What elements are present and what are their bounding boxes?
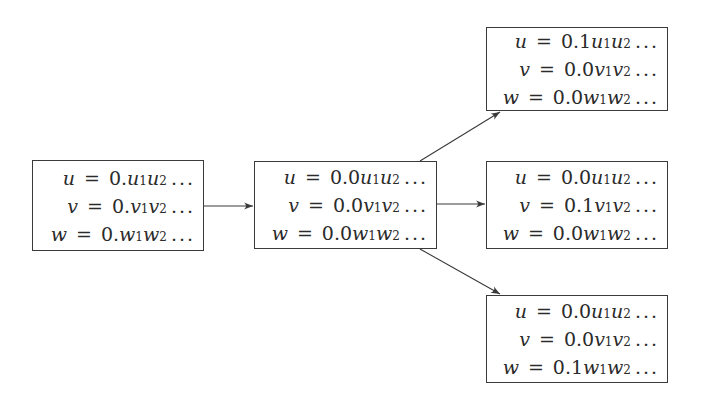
lhs-var: u [509,27,527,55]
diagram-canvas: u = 0. u1 u2 ... v = 0. v1 v2 ... w = 0.… [0,0,708,404]
digit-var: w [607,83,623,111]
digit-prefix: 0.0 [322,219,352,247]
equation-v: v = 0.0 v1 v2 ... [487,325,667,353]
equation-v: v = 0.1 v1 v2 ... [487,191,667,219]
digit-var: v [594,55,605,83]
lhs-var: w [501,219,519,247]
equation-u: u = 0. u1 u2 ... [33,164,203,192]
digit-prefix: 0.0 [333,191,363,219]
digit-prefix: 0.0 [553,83,583,111]
ellipsis: ... [171,220,195,248]
equals-sign: = [76,220,92,248]
lhs-var: w [501,353,519,381]
digit-var: v [149,192,160,220]
digit-var: w [143,220,159,248]
lhs-var: w [501,83,519,111]
ellipsis: ... [171,192,195,220]
node-child-u: u = 0.1 u1 u2 ... v = 0.0 v1 v2 ... w = … [486,27,668,111]
digit-var: w [583,219,599,247]
digit-var: u [611,27,623,55]
ellipsis: ... [635,55,659,83]
lhs-var: v [512,55,530,83]
digit-var: w [376,219,392,247]
digit-var: w [583,83,599,111]
equals-sign: = [84,164,100,192]
digit-prefix: 0.0 [564,55,594,83]
lhs-var: u [509,163,527,191]
equals-sign: = [539,191,555,219]
equation-u: u = 0.0 u1 u2 ... [487,297,667,325]
digit-var: v [130,192,141,220]
equation-v: v = 0. v1 v2 ... [33,192,203,220]
equation-w: w = 0.0 w1 w2 ... [487,83,667,111]
ellipsis: ... [635,325,659,353]
ellipsis: ... [404,163,428,191]
digit-var: v [594,191,605,219]
digit-var: v [613,325,624,353]
equation-w: w = 0. w1 w2 ... [33,220,203,248]
digit-var: v [594,325,605,353]
digit-prefix: 0.1 [564,191,594,219]
digit-var: w [119,220,135,248]
digit-var: w [583,353,599,381]
equation-w: w = 0.0 w1 w2 ... [255,219,436,247]
lhs-var: u [509,297,527,325]
digit-var: u [360,163,372,191]
equals-sign: = [536,163,552,191]
digit-prefix: 0.0 [564,325,594,353]
equation-w: w = 0.0 w1 w2 ... [487,219,667,247]
equals-sign: = [297,219,313,247]
lhs-var: u [278,163,296,191]
digit-var: w [607,353,623,381]
digit-var: u [591,297,603,325]
node-child-w: u = 0.0 u1 u2 ... v = 0.0 v1 v2 ... w = … [486,295,668,383]
digit-var: u [591,27,603,55]
equals-sign: = [536,27,552,55]
digit-var: u [147,164,159,192]
equals-sign: = [308,191,324,219]
equation-u: u = 0.0 u1 u2 ... [255,163,436,191]
ellipsis: ... [635,83,659,111]
equation-w: w = 0.1 w1 w2 ... [487,353,667,381]
equation-u: u = 0.1 u1 u2 ... [487,27,667,55]
edge-middle-to-child-w [420,249,500,294]
digit-var: u [380,163,392,191]
equals-sign: = [539,325,555,353]
lhs-var: u [57,164,75,192]
ellipsis: ... [635,27,659,55]
equation-v: v = 0.0 v1 v2 ... [255,191,436,219]
digit-prefix: 0. [112,192,130,220]
lhs-var: v [512,191,530,219]
ellipsis: ... [635,219,659,247]
digit-prefix: 0.1 [561,27,591,55]
digit-var: v [363,191,374,219]
node-middle: u = 0.0 u1 u2 ... v = 0.0 v1 v2 ... w = … [254,161,437,249]
equals-sign: = [536,297,552,325]
equals-sign: = [539,55,555,83]
digit-prefix: 0. [109,164,127,192]
equals-sign: = [528,353,544,381]
equation-v: v = 0.0 v1 v2 ... [487,55,667,83]
digit-prefix: 0.1 [553,353,583,381]
lhs-var: w [270,219,288,247]
ellipsis: ... [635,163,659,191]
lhs-var: v [281,191,299,219]
digit-var: w [607,219,623,247]
ellipsis: ... [635,191,659,219]
digit-var: u [127,164,139,192]
ellipsis: ... [171,164,195,192]
lhs-var: v [512,325,530,353]
ellipsis: ... [635,297,659,325]
ellipsis: ... [404,219,428,247]
digit-var: u [611,163,623,191]
digit-prefix: 0.0 [561,297,591,325]
digit-var: v [613,191,624,219]
digit-var: u [591,163,603,191]
digit-var: v [613,55,624,83]
lhs-var: w [49,220,67,248]
digit-prefix: 0.0 [330,163,360,191]
digit-var: v [382,191,393,219]
digit-prefix: 0.0 [553,219,583,247]
lhs-var: v [60,192,78,220]
equals-sign: = [87,192,103,220]
